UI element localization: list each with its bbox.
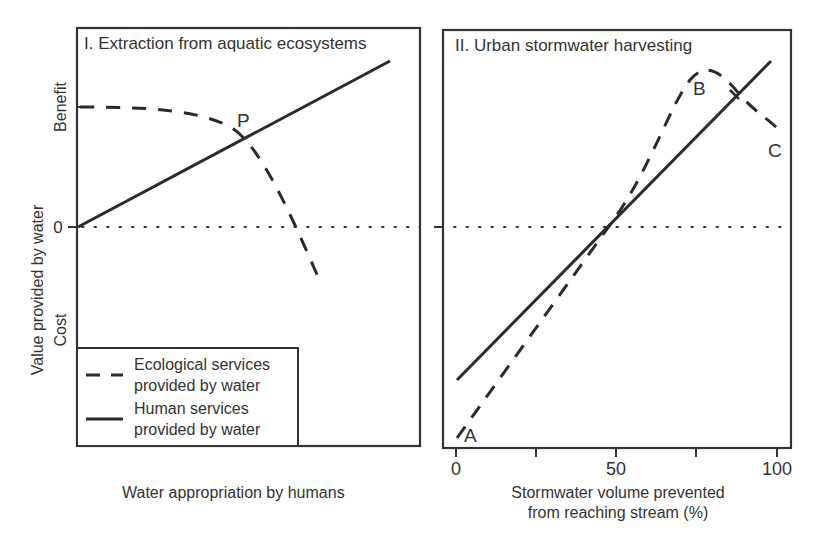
zero-label: 0: [53, 218, 62, 237]
legend: Ecological services provided by water Hu…: [77, 348, 298, 446]
legend-human-line2: provided by water: [134, 421, 261, 438]
panel-1-ecological-services-curve: [80, 107, 318, 277]
panel-1-x-label: Water appropriation by humans: [122, 484, 345, 501]
legend-eco-line2: provided by water: [134, 377, 261, 394]
panel-1-human-services-line: [78, 61, 390, 227]
x-tick-label-0: 0: [451, 459, 461, 479]
legend-human-line1: Human services: [134, 400, 249, 417]
point-c-label: C: [768, 140, 782, 161]
point-a-label: A: [464, 425, 477, 446]
panel-1-title: I. Extraction from aquatic ecosystems: [84, 34, 367, 53]
panel-2-x-label-line1: Stormwater volume prevented: [511, 484, 724, 501]
benefit-label: Benefit: [52, 82, 69, 132]
panel-2-x-label-line2: from reaching stream (%): [528, 504, 709, 521]
x-tick-label-100: 100: [762, 459, 792, 479]
panel-2-ecological-services-curve: [457, 70, 780, 438]
y-axis-label: Value provided by water: [29, 204, 46, 375]
point-b-label: B: [693, 78, 706, 99]
cost-label: Cost: [52, 313, 69, 346]
legend-eco-line1: Ecological services: [134, 356, 270, 373]
panel-2-human-services-line: [457, 61, 771, 380]
point-p-label: P: [237, 110, 250, 131]
panel-2: II. Urban stormwater harvesting B C A 0 …: [434, 30, 792, 521]
x-tick-label-50: 50: [606, 459, 626, 479]
figure: I. Extraction from aquatic ecosystems P …: [0, 0, 818, 551]
panel-1: I. Extraction from aquatic ecosystems P …: [68, 28, 420, 501]
panel-2-title: II. Urban stormwater harvesting: [455, 36, 692, 55]
